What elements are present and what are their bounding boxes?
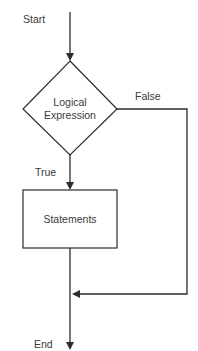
false-arrowhead-icon: [72, 290, 80, 298]
decision-diamond: [23, 61, 117, 155]
end-arrowhead-icon: [66, 342, 74, 350]
true-label: True: [35, 166, 56, 178]
start-label: Start: [23, 13, 45, 25]
true-arrowhead-icon: [66, 182, 74, 190]
decision-label-line2: Expression: [44, 109, 96, 121]
end-label: End: [34, 338, 53, 350]
false-label: False: [135, 90, 161, 102]
flowchart: Start Logical Expression False True Stat…: [0, 0, 198, 351]
statements-label: Statements: [43, 213, 96, 225]
start-arrowhead-icon: [66, 53, 74, 61]
decision-label-line1: Logical: [53, 96, 86, 108]
